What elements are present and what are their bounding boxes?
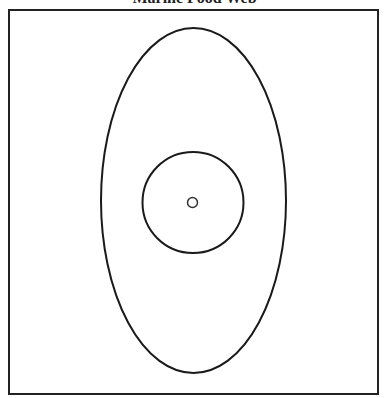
outer-ellipse <box>101 28 286 373</box>
diagram-canvas <box>0 0 389 398</box>
middle-circle <box>143 152 244 253</box>
inner-circle <box>188 198 198 208</box>
diagram-frame <box>9 10 378 394</box>
